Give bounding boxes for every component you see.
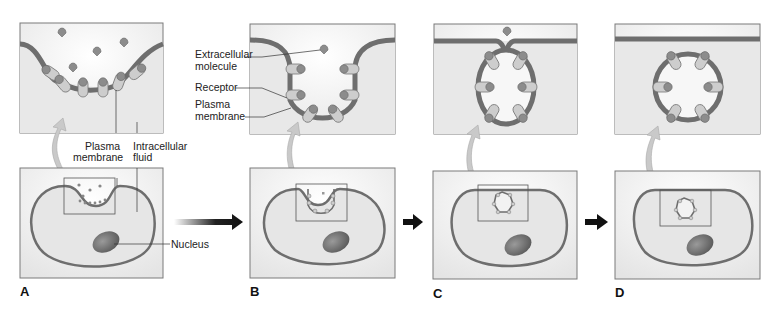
panel-c: C: [433, 24, 577, 301]
panel-d: D: [615, 24, 760, 300]
panel-letter-c: C: [433, 286, 443, 301]
step-arrow-bc: [403, 214, 423, 230]
label-plasma-membrane-b1: Plasma: [195, 98, 230, 110]
panel-letter-a: A: [20, 284, 30, 299]
label-extracellular-1: Extracellular: [195, 48, 253, 60]
step-arrow-cd: [585, 214, 608, 230]
endocytosis-diagram: Plasma membrane Intracellular fluid Nucl…: [0, 0, 782, 312]
label-plasma-membrane-b2: membrane: [195, 110, 245, 122]
step-arrow-ab: [174, 214, 243, 230]
panel-a: Plasma membrane Intracellular fluid Nucl…: [20, 23, 209, 299]
label-plasma-membrane-a2: membrane: [73, 151, 123, 163]
label-nucleus: Nucleus: [171, 238, 209, 250]
panel-letter-d: D: [615, 285, 624, 300]
label-intracellular-2: fluid: [133, 151, 152, 163]
panel-letter-b: B: [250, 284, 259, 299]
panel-b: Extracellular molecule Receptor Plasma m…: [195, 24, 395, 299]
label-receptor: Receptor: [195, 81, 238, 93]
label-extracellular-2: molecule: [195, 60, 237, 72]
